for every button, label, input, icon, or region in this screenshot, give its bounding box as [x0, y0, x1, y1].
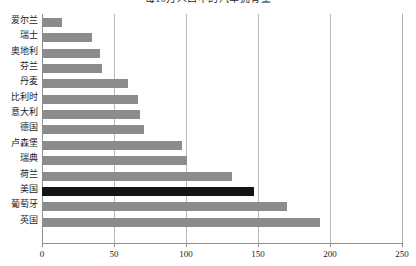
bar	[42, 18, 62, 27]
x-tick-label: 100	[179, 249, 193, 260]
bar	[42, 79, 128, 88]
x-tick-100	[186, 243, 187, 247]
bar	[42, 172, 232, 181]
category-label: 奥地利	[0, 45, 38, 58]
bar	[42, 141, 182, 150]
x-tick-0	[42, 243, 43, 247]
x-tick-200	[330, 243, 331, 247]
bar-row: 奥地利	[42, 46, 402, 61]
x-axis-ticks: 050100150200250	[42, 243, 402, 265]
bar	[42, 64, 102, 73]
category-label: 荷兰	[0, 168, 38, 181]
x-tick-150	[258, 243, 259, 247]
bar	[42, 33, 92, 42]
bar	[42, 187, 254, 196]
x-tick-50	[114, 243, 115, 247]
bar-row: 比利时	[42, 92, 402, 107]
x-tick-250	[402, 243, 403, 247]
bar-chart: 每10万人口中的汽车拥有量 爱尔兰瑞士奥地利芬兰丹麦比利时意大利德国卢森堡瑞典荷…	[0, 0, 416, 266]
bar	[42, 202, 287, 211]
gridline-250	[402, 14, 403, 243]
bar	[42, 125, 144, 134]
bar-row: 瑞典	[42, 153, 402, 168]
bar-row: 德国	[42, 122, 402, 137]
category-label: 意大利	[0, 106, 38, 119]
bar-row: 荷兰	[42, 169, 402, 184]
category-label: 卢森堡	[0, 137, 38, 150]
bar	[42, 110, 140, 119]
bar-row: 美国	[42, 184, 402, 199]
bar	[42, 95, 138, 104]
bar-row: 丹麦	[42, 76, 402, 91]
bar-row: 爱尔兰	[42, 15, 402, 30]
category-label: 葡萄牙	[0, 198, 38, 211]
bar-row: 瑞士	[42, 30, 402, 45]
bar-row: 意大利	[42, 107, 402, 122]
category-label: 德国	[0, 121, 38, 134]
x-tick-label: 0	[40, 249, 45, 260]
bar	[42, 218, 320, 227]
category-label: 瑞士	[0, 29, 38, 42]
bar-row: 葡萄牙	[42, 199, 402, 214]
x-tick-label: 150	[251, 249, 265, 260]
category-label: 爱尔兰	[0, 14, 38, 27]
x-tick-label: 250	[395, 249, 409, 260]
category-label: 丹麦	[0, 75, 38, 88]
x-tick-label: 50	[110, 249, 119, 260]
bar-row: 英国	[42, 215, 402, 230]
chart-title: 每10万人口中的汽车拥有量	[0, 0, 416, 5]
category-label: 芬兰	[0, 60, 38, 73]
category-label: 美国	[0, 183, 38, 196]
bar-row: 芬兰	[42, 61, 402, 76]
bar	[42, 49, 100, 58]
bar	[42, 156, 187, 165]
category-label: 瑞典	[0, 152, 38, 165]
category-label: 英国	[0, 214, 38, 227]
category-label: 比利时	[0, 91, 38, 104]
bar-row: 卢森堡	[42, 138, 402, 153]
x-tick-label: 200	[323, 249, 337, 260]
plot-area: 爱尔兰瑞士奥地利芬兰丹麦比利时意大利德国卢森堡瑞典荷兰美国葡萄牙英国	[42, 14, 402, 243]
